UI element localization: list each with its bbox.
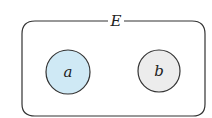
set-label: E: [110, 12, 122, 30]
element-b-label: b: [154, 62, 164, 80]
element-a-label: a: [64, 63, 73, 81]
set-diagram: E a b: [0, 0, 212, 118]
